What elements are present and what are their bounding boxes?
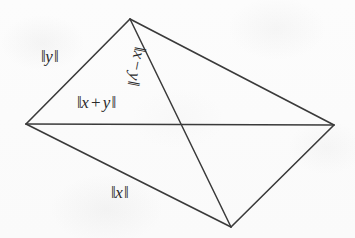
label-norm-x: ‖x‖ — [110, 184, 128, 201]
side-bottom-right-line — [231, 125, 334, 227]
diagram-canvas — [0, 0, 355, 238]
plus-operator: + — [89, 93, 103, 112]
label-norm-x-plus-y: ‖x+y‖ — [76, 94, 116, 111]
label-norm-y: ‖y‖ — [40, 48, 58, 65]
variable-y-in-sum: y — [103, 93, 111, 112]
parallelogram-law-figure: ‖y‖ ‖x+y‖ ‖x‖ ‖x−y‖ — [0, 0, 355, 238]
norm-bar-close-x: ‖ — [123, 183, 128, 202]
side-top-right-line — [130, 19, 334, 125]
variable-x: x — [115, 183, 123, 202]
diagonal-horizontal-line — [26, 124, 334, 125]
variable-y: y — [45, 47, 53, 66]
variable-x-in-sum: x — [81, 93, 89, 112]
norm-bar-close-y: ‖ — [53, 47, 58, 66]
side-left-bottom-line — [26, 124, 231, 227]
norm-bar-close-xplusy: ‖ — [111, 93, 116, 112]
